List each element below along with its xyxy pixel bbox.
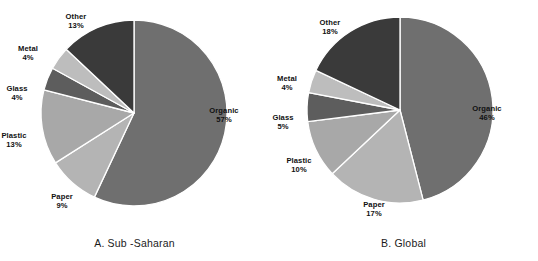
pie-label-glass-value: 5% <box>272 122 293 131</box>
pie-label-organic-name: Organic <box>472 104 501 113</box>
pie-label-metal-name: Metal <box>277 74 297 83</box>
pie-label-glass-value: 4% <box>6 93 27 102</box>
pie-label-organic: Organic 57% <box>209 106 238 125</box>
panel-caption-global: B. Global <box>269 237 538 249</box>
figure-two-pie-charts: Organic 57% Paper 9% Plastic 13% Glass 4… <box>0 0 538 261</box>
pie-label-plastic-value: 10% <box>286 165 311 174</box>
pie-label-paper: Paper 17% <box>363 200 385 219</box>
pie-label-organic: Organic 46% <box>472 104 501 123</box>
pie-label-paper: Paper 9% <box>51 192 73 211</box>
pie-label-paper-name: Paper <box>51 192 73 201</box>
pie-label-other-name: Other <box>320 18 341 27</box>
panel-global: Organic 46% Paper 17% Plastic 10% Glass … <box>269 0 538 261</box>
pie-label-metal-value: 4% <box>18 53 38 62</box>
pie-label-metal: Metal 4% <box>277 74 297 93</box>
pie-label-organic-name: Organic <box>209 106 238 115</box>
pie-label-glass-name: Glass <box>272 113 293 122</box>
pie-label-paper-value: 9% <box>51 201 73 210</box>
pie-label-plastic-value: 13% <box>1 140 26 149</box>
pie-label-organic-value: 57% <box>209 115 238 124</box>
pie-label-organic-value: 46% <box>472 113 501 122</box>
pie-label-other-name: Other <box>66 12 87 21</box>
pie-label-paper-name: Paper <box>363 200 385 209</box>
pie-label-plastic-name: Plastic <box>286 156 311 165</box>
pie-label-other: Other 18% <box>320 18 341 37</box>
pie-label-glass-name: Glass <box>6 84 27 93</box>
pie-label-plastic: Plastic 10% <box>286 156 311 175</box>
pie-label-metal: Metal 4% <box>18 44 38 63</box>
pie-label-plastic-name: Plastic <box>1 131 26 140</box>
pie-label-other-value: 18% <box>320 27 341 36</box>
pie-label-glass: Glass 5% <box>272 113 293 132</box>
pie-label-glass: Glass 4% <box>6 84 27 103</box>
pie-label-other: Other 13% <box>66 12 87 31</box>
pie-label-other-value: 13% <box>66 21 87 30</box>
panel-sub-saharan: Organic 57% Paper 9% Plastic 13% Glass 4… <box>0 0 269 261</box>
pie-label-metal-value: 4% <box>277 83 297 92</box>
panel-caption-sub-saharan: A. Sub -Saharan <box>0 237 269 249</box>
pie-label-plastic: Plastic 13% <box>1 131 26 150</box>
pie-label-paper-value: 17% <box>363 209 385 218</box>
pie-label-metal-name: Metal <box>18 44 38 53</box>
